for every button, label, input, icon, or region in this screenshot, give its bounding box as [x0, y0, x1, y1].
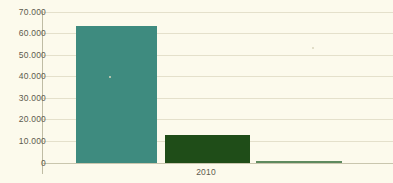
- x-tick-label-2010: 2010: [196, 167, 216, 177]
- bar-series-1: [76, 26, 157, 163]
- y-tick-label-0: 0: [0, 158, 46, 168]
- bar-series-3: [256, 161, 342, 163]
- paper-speck: [109, 76, 111, 78]
- gridline-70000: [42, 12, 393, 13]
- paper-speck: [312, 47, 314, 49]
- bar-series-2: [165, 135, 250, 163]
- y-tick-label-70000: 70.000: [0, 7, 46, 17]
- y-tick-label-50000: 50.000: [0, 50, 46, 60]
- y-tick-label-30000: 30.000: [0, 93, 46, 103]
- gridline-zero-baseline: [42, 163, 393, 164]
- y-tick-label-40000: 40.000: [0, 71, 46, 81]
- y-tick-label-20000: 20.000: [0, 114, 46, 124]
- bar-chart: 70.000 60.000 50.000 40.000 30.000 20.00…: [0, 0, 393, 183]
- y-tick-label-60000: 60.000: [0, 28, 46, 38]
- y-tick-label-10000: 10.000: [0, 136, 46, 146]
